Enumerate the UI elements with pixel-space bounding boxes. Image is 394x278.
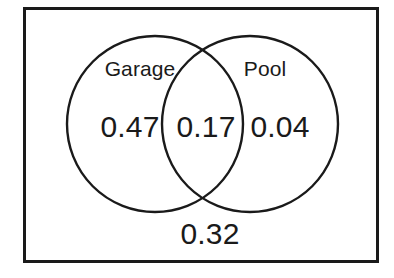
outside-region-value: 0.32 xyxy=(180,219,239,249)
venn-diagram-figure: Garage Pool 0.47 0.17 0.04 0.32 xyxy=(0,0,394,278)
pool-only-value: 0.04 xyxy=(250,112,309,142)
garage-only-value: 0.47 xyxy=(100,112,159,142)
garage-set-label: Garage xyxy=(105,58,176,79)
intersection-value: 0.17 xyxy=(176,112,235,142)
pool-set-label: Pool xyxy=(244,58,286,79)
